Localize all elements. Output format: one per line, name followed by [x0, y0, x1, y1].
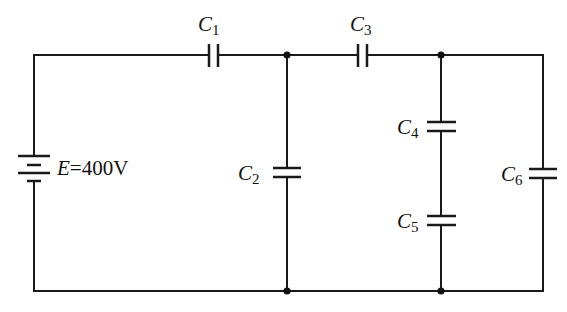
source-value: 400V [82, 156, 129, 180]
source-equals: = [70, 156, 82, 180]
capacitor-c6-icon [529, 169, 557, 178]
junction-bottom-c5 [437, 287, 444, 294]
label-c3: C3 [350, 14, 372, 38]
junction-top-c4 [437, 51, 444, 58]
junction-dots [283, 51, 444, 294]
label-c4: C4 [397, 117, 419, 141]
junction-bottom-c2 [283, 287, 290, 294]
capacitor-c2-icon [273, 168, 301, 177]
source-label: E=400V [57, 158, 128, 179]
label-c6: C6 [501, 164, 523, 188]
capacitor-c4-icon [427, 122, 456, 131]
label-c1: C1 [198, 14, 220, 38]
capacitor-c5-icon [427, 216, 456, 225]
capacitor-c3-icon [358, 44, 367, 67]
battery-icon [18, 156, 50, 181]
junction-top-c2 [283, 51, 290, 58]
capacitor-c1-icon [209, 44, 218, 67]
label-c5: C5 [397, 211, 419, 235]
source-symbol: E [57, 156, 70, 180]
label-c2: C2 [238, 163, 260, 187]
circuit-diagram: E=400V C1 C3 C2 C4 C5 C6 [0, 0, 567, 312]
